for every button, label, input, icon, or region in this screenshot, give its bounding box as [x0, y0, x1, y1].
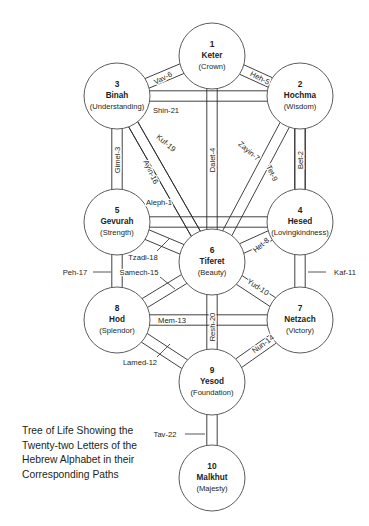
sephira-meaning-10: (Majesty): [196, 484, 228, 493]
path-samech-15: [148, 283, 187, 307]
path-label-kaf-11: Kaf-11: [334, 268, 356, 277]
path-label-aleph-1: Aleph-1: [146, 198, 172, 207]
sephira-name-3: Binah: [106, 91, 129, 100]
sephira-number-1: 1: [210, 39, 215, 49]
leader-line-lamed-12: [157, 344, 170, 357]
sephira-number-5: 5: [115, 205, 120, 215]
sephira-netzach[interactable]: 7Netzach(Victory): [267, 287, 333, 353]
sephira-hod[interactable]: 8Hod(Splendor): [84, 287, 150, 353]
sephira-number-10: 10: [207, 461, 217, 471]
sephira-meaning-6: (Beauty): [198, 268, 227, 277]
sephira-name-1: Keter: [202, 51, 224, 60]
sephira-hochma[interactable]: 2Hochma(Wisdom): [267, 63, 333, 129]
sephira-number-7: 7: [298, 303, 303, 313]
path-label-vav-6: Vav-6: [152, 70, 173, 87]
path-label-kuf-19: Kuf-19: [154, 132, 177, 153]
sephira-number-8: 8: [115, 303, 120, 313]
sephira-meaning-2: (Wisdom): [284, 102, 317, 111]
sephira-name-2: Hochma: [284, 91, 317, 100]
path-label-bet-2: Bet-2: [296, 151, 305, 169]
sephira-malkhut[interactable]: 10Malkhut(Majesty): [179, 445, 245, 511]
path-label-tzadi-18: Tzadi-18: [128, 253, 158, 262]
sephira-name-10: Malkhut: [197, 473, 228, 482]
sephira-hesed[interactable]: 4Hesed(Lovingkindness): [267, 189, 333, 255]
path-label-tet-9: Tet-9: [264, 163, 279, 182]
sephira-meaning-9: (Foundation): [190, 388, 234, 397]
path-label-zayin-7: Zayin-7: [236, 139, 261, 162]
sephira-name-9: Yesod: [200, 377, 224, 386]
sephira-name-7: Netzach: [284, 315, 315, 324]
path-label-heh-5: Heh-5: [249, 69, 272, 86]
path-label-lamed-12: Lamed-12: [123, 358, 157, 367]
sephira-number-2: 2: [298, 79, 303, 89]
sephira-tiferet[interactable]: 6Tiferet(Beauty): [179, 229, 245, 295]
sephira-meaning-4: (Lovingkindness): [271, 228, 329, 237]
sephira-binah[interactable]: 3Binah(Understanding): [84, 63, 150, 129]
sephira-name-5: Gevurah: [100, 217, 133, 226]
path-label-dalet-4: Dalet-4: [208, 148, 217, 172]
sephira-number-6: 6: [210, 245, 215, 255]
tree-of-life-diagram: 1Keter(Crown)2Hochma(Wisdom)3Binah(Under…: [0, 0, 369, 526]
sephira-gevurah[interactable]: 5Gevurah(Strength): [84, 189, 150, 255]
sephira-meaning-8: (Splendor): [99, 326, 135, 335]
path-label-mem-13: Mem-13: [158, 316, 186, 325]
diagram-caption: Tree of Life Showing the Twenty-two Lett…: [22, 424, 172, 482]
sephira-meaning-3: (Understanding): [90, 102, 145, 111]
leader-line-samech-15: [160, 277, 175, 289]
sephira-meaning-5: (Strength): [100, 228, 134, 237]
path-label-shin-21: Shin-21: [153, 106, 179, 115]
path-label-ayin-16: Ayin-16: [141, 159, 160, 186]
path-label-peh-17: Peh-17: [63, 268, 88, 277]
path-label-het-8: Het-8: [251, 236, 271, 255]
sephira-yesod[interactable]: 9Yesod(Foundation): [179, 349, 245, 415]
sephira-keter[interactable]: 1Keter(Crown): [179, 23, 245, 89]
path-label-resh-20: Resh-20: [208, 313, 217, 342]
sephira-name-4: Hesed: [288, 217, 313, 226]
path-tzadi-18: [149, 230, 184, 245]
sephira-number-4: 4: [298, 205, 303, 215]
path-label-yud-10: Yud-10: [245, 277, 270, 298]
sephira-meaning-7: (Victory): [286, 326, 315, 335]
sephira-number-9: 9: [210, 365, 215, 375]
path-label-gimel-3: Gimel-3: [113, 147, 122, 174]
sephira-meaning-1: (Crown): [198, 62, 225, 71]
sephira-number-3: 3: [115, 79, 120, 89]
sephira-name-6: Tiferet: [200, 257, 225, 266]
path-label-samech-15: Samech-15: [120, 268, 159, 277]
sephira-name-8: Hod: [109, 315, 125, 324]
